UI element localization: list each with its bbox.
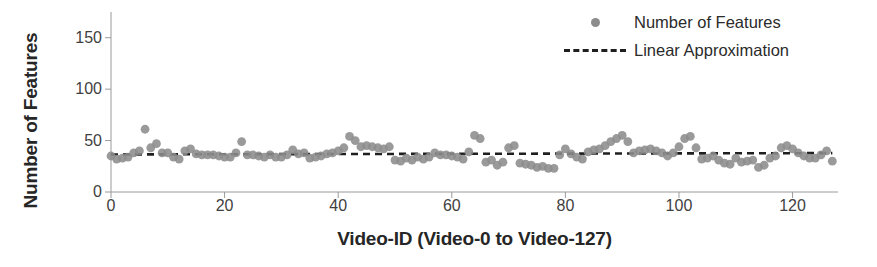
- data-point: [760, 161, 769, 170]
- data-point: [771, 152, 780, 161]
- legend-item-linear-approximation: Linear Approximation: [556, 36, 856, 64]
- data-point: [748, 156, 757, 165]
- data-point: [459, 155, 468, 164]
- data-points-group: [107, 125, 837, 173]
- data-point: [578, 155, 587, 164]
- scatter-chart: Number of Features 050100150 02040608010…: [0, 0, 877, 267]
- legend-label-linear-approximation: Linear Approximation: [634, 41, 789, 60]
- data-point: [822, 146, 831, 155]
- dot-marker-icon: [556, 18, 634, 27]
- legend-label-number-of-features: Number of Features: [634, 13, 781, 32]
- dashed-line-marker-icon: [556, 49, 634, 52]
- data-point: [135, 146, 144, 155]
- chart-legend: Number of Features Linear Approximation: [556, 8, 856, 64]
- data-point: [464, 147, 473, 156]
- data-point: [141, 125, 150, 134]
- data-point: [476, 134, 485, 143]
- data-point: [675, 142, 684, 151]
- data-point: [152, 139, 161, 148]
- data-point: [339, 143, 348, 152]
- data-point: [498, 158, 507, 167]
- data-point: [385, 142, 394, 151]
- legend-item-number-of-features: Number of Features: [556, 8, 856, 36]
- data-point: [686, 132, 695, 141]
- data-point: [510, 141, 519, 150]
- data-point: [232, 149, 241, 158]
- data-point: [550, 164, 559, 173]
- data-point: [828, 157, 837, 166]
- data-point: [623, 137, 632, 146]
- data-point: [237, 137, 246, 146]
- data-point: [175, 155, 184, 164]
- data-point: [692, 143, 701, 152]
